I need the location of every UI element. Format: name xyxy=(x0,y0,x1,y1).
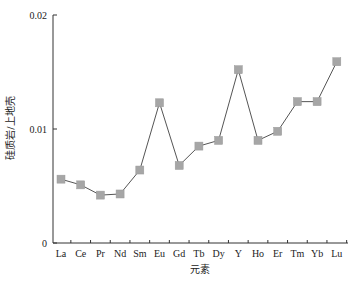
x-tick-label: Pr xyxy=(96,248,106,259)
data-point-marker xyxy=(156,99,164,107)
data-point-marker xyxy=(57,175,65,183)
data-point-marker xyxy=(254,136,262,144)
ree-pattern-chart: 00.010.02 LaCePrNdSmEuGdTbDyYHoErTmYbLu … xyxy=(0,0,359,282)
x-tick-label: Ho xyxy=(252,248,264,259)
data-point-marker xyxy=(293,98,301,106)
x-tick-label: Ce xyxy=(75,248,87,259)
y-tick-label: 0 xyxy=(42,238,47,249)
axes xyxy=(53,15,348,243)
x-tick-label: Nd xyxy=(114,248,126,259)
data-point-marker xyxy=(77,181,85,189)
data-point-marker xyxy=(136,166,144,174)
x-tick-label: Sm xyxy=(133,248,147,259)
x-tick-label: Er xyxy=(273,248,283,259)
data-series xyxy=(57,58,341,199)
x-tick-label: Tm xyxy=(290,248,304,259)
x-tick-label: Eu xyxy=(154,248,165,259)
y-tick-label: 0.01 xyxy=(30,124,48,135)
data-point-marker xyxy=(234,66,242,74)
x-tick-label: Lu xyxy=(331,248,342,259)
data-point-marker xyxy=(215,136,223,144)
x-tick-label: Y xyxy=(235,248,242,259)
x-tick-label: Gd xyxy=(173,248,185,259)
data-point-marker xyxy=(175,161,183,169)
x-tick-label: Yb xyxy=(311,248,323,259)
y-axis-title: 硅质岩/上地壳 xyxy=(4,96,16,159)
x-axis-title: 元素 xyxy=(190,263,210,275)
x-tick-label: La xyxy=(56,248,67,259)
x-tick-label: Dy xyxy=(212,248,224,259)
data-point-marker xyxy=(96,191,104,199)
data-point-marker xyxy=(116,190,124,198)
data-point-marker xyxy=(274,127,282,135)
x-tick-label: Tb xyxy=(193,248,204,259)
y-tick-label: 0.02 xyxy=(30,10,48,21)
data-point-marker xyxy=(195,142,203,150)
series-line xyxy=(61,62,337,195)
data-point-marker xyxy=(313,98,321,106)
data-point-marker xyxy=(333,58,341,66)
